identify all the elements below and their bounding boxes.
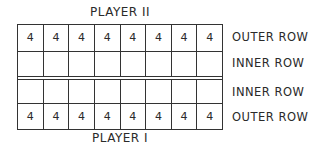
pit <box>171 52 197 77</box>
row-label-outer-bottom: OUTER ROW <box>232 110 308 124</box>
pit: 4 <box>94 25 120 51</box>
player-two-outer-row: 4 4 4 4 4 4 4 4 <box>18 25 222 51</box>
pit <box>171 80 197 103</box>
pit <box>68 52 94 77</box>
player-two-label: PLAYER II <box>17 5 223 19</box>
mancala-board: 4 4 4 4 4 4 4 4 4 4 4 4 4 4 4 4 <box>17 24 223 130</box>
pit <box>196 80 222 103</box>
pit <box>18 80 43 103</box>
pit <box>196 52 222 77</box>
pit: 4 <box>68 25 94 51</box>
pit <box>120 80 146 103</box>
pit <box>145 80 171 103</box>
pit: 4 <box>43 25 69 51</box>
row-label-inner-bottom: INNER ROW <box>232 85 304 99</box>
pit: 4 <box>145 104 171 129</box>
pit: 4 <box>18 25 43 51</box>
pit: 4 <box>43 104 69 129</box>
pit: 4 <box>94 104 120 129</box>
player-one-inner-row <box>18 76 222 103</box>
player-one-label: PLAYER I <box>17 131 223 145</box>
pit: 4 <box>171 25 197 51</box>
pit <box>94 80 120 103</box>
pit: 4 <box>171 104 197 129</box>
pit <box>68 80 94 103</box>
pit <box>43 80 69 103</box>
row-label-outer-top: OUTER ROW <box>232 30 308 44</box>
pit: 4 <box>196 25 222 51</box>
pit: 4 <box>68 104 94 129</box>
pit <box>145 52 171 77</box>
pit: 4 <box>120 25 146 51</box>
pit: 4 <box>145 25 171 51</box>
player-two-inner-row <box>18 51 222 77</box>
pit <box>120 52 146 77</box>
pit <box>43 52 69 77</box>
row-label-inner-top: INNER ROW <box>232 56 304 70</box>
pit: 4 <box>120 104 146 129</box>
pit: 4 <box>196 104 222 129</box>
pit: 4 <box>18 104 43 129</box>
pit <box>94 52 120 77</box>
pit <box>18 52 43 77</box>
player-one-outer-row: 4 4 4 4 4 4 4 4 <box>18 103 222 129</box>
